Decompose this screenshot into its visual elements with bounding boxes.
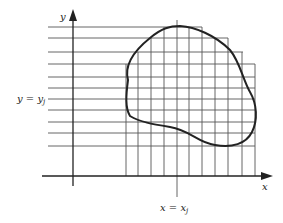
axes (42, 18, 266, 186)
region-grid-diagram: y x y = yj x = xj (0, 0, 283, 223)
y-axis-label: y (59, 11, 66, 22)
x-axis-label: x (262, 181, 268, 192)
vertical-line-label: x = xj (160, 202, 189, 215)
horizontal-line-label: y = yj (16, 93, 46, 106)
region-boundary-curve (126, 26, 256, 146)
vertical-grid-lines (126, 20, 255, 197)
x-axis-arrow-icon (261, 172, 273, 180)
vertical-line-label-text: x = x (160, 202, 186, 213)
horizontal-line-label-text: y = y (16, 93, 43, 104)
y-axis-arrow-icon (69, 9, 77, 21)
